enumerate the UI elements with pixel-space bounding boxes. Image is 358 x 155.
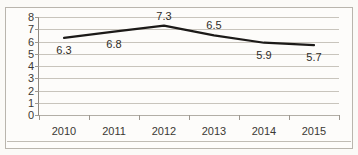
x-tick-label: 2013 (189, 124, 239, 140)
x-axis-ticks (39, 115, 339, 121)
x-tick-mark (189, 115, 190, 120)
data-label: 6.3 (56, 44, 71, 55)
y-tick-label: 1 (28, 97, 34, 108)
series-line-chart (39, 17, 339, 115)
y-tick-label: 6 (28, 36, 34, 47)
y-tick-label: 8 (28, 12, 34, 23)
data-label: 6.8 (106, 38, 121, 49)
x-tick-label: 2014 (239, 124, 289, 140)
data-label: 6.5 (206, 20, 221, 31)
x-tick-label: 2011 (89, 124, 139, 140)
data-label: 7.3 (156, 10, 171, 21)
chart-frame: 876543210 6.36.87.36.55.95.7 20102011201… (5, 7, 353, 149)
plot-area: 876543210 6.36.87.36.55.95.7 (39, 17, 339, 115)
x-tick-label: 2010 (39, 124, 89, 140)
y-tick-label: 2 (28, 85, 34, 96)
x-axis-rule (7, 141, 351, 142)
series-line (64, 26, 314, 46)
x-tick-mark (239, 115, 240, 120)
y-tick-label: 3 (28, 73, 34, 84)
x-tick-label: 2015 (289, 124, 339, 140)
x-tick-mark (339, 115, 340, 120)
chart-figure: ——— ———— ——— 876543210 6.36.87.36.55.95.… (0, 0, 358, 155)
x-tick-label: 2012 (139, 124, 189, 140)
y-tick-label: 5 (28, 48, 34, 59)
data-label: 5.7 (306, 52, 321, 63)
y-tick-label: 0 (28, 110, 34, 121)
x-axis-labels: 201020112012201320142015 (39, 124, 339, 140)
x-tick-mark (39, 115, 40, 120)
x-tick-mark (139, 115, 140, 120)
chart-title-clipped: ——— ———— ——— (4, 0, 194, 4)
x-tick-mark (89, 115, 90, 120)
y-tick-label: 4 (28, 61, 34, 72)
y-tick-label: 7 (28, 24, 34, 35)
x-tick-mark (289, 115, 290, 120)
data-label: 5.9 (256, 49, 271, 60)
